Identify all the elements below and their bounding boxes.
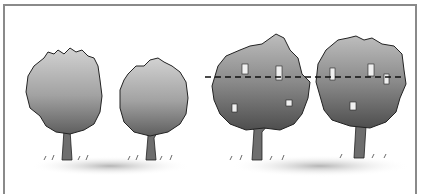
shrub-3 [212, 34, 310, 160]
shrub-4 [316, 36, 406, 158]
shrub-illustration [0, 0, 423, 189]
shrub-2 [120, 58, 188, 160]
shrub-1 [26, 48, 102, 160]
ground-left [30, 156, 190, 176]
